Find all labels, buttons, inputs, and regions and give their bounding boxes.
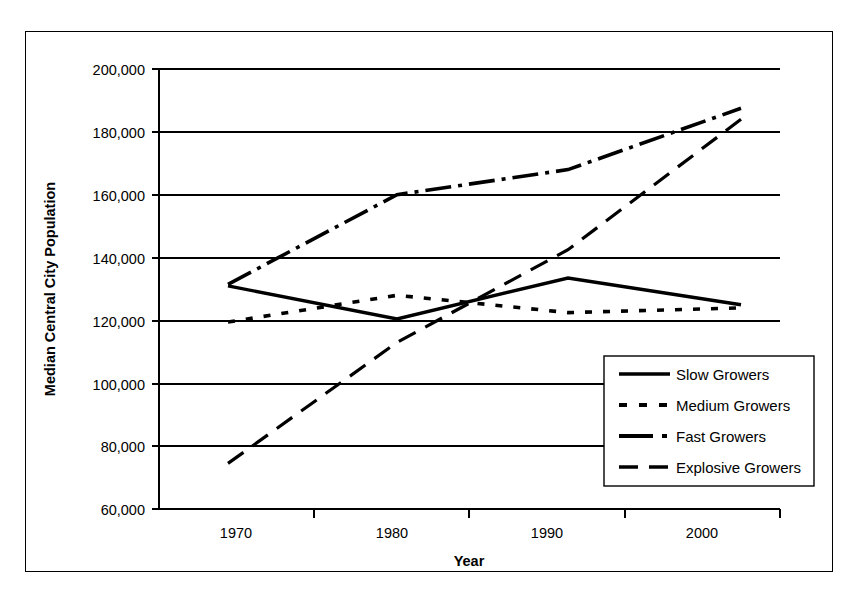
legend-label: Explosive Growers xyxy=(676,459,801,476)
x-tick-label: 1990 xyxy=(531,525,563,541)
y-axis-tick-labels: 200,000 180,000 160,000 140,000 120,000 … xyxy=(93,62,145,518)
chart-container: 200,000 180,000 160,000 140,000 120,000 … xyxy=(0,0,859,605)
y-tick-marks xyxy=(152,69,159,509)
chart-canvas: 200,000 180,000 160,000 140,000 120,000 … xyxy=(0,0,859,605)
y-tick-label: 120,000 xyxy=(93,314,145,330)
y-tick-label: 100,000 xyxy=(93,377,145,393)
y-tick-label: 200,000 xyxy=(93,62,145,78)
y-tick-label: 180,000 xyxy=(93,125,145,141)
chart-legend[interactable]: Slow Growers Medium Growers Fast Growers… xyxy=(604,356,814,486)
y-tick-label: 140,000 xyxy=(93,251,145,267)
x-tick-label: 2000 xyxy=(686,525,718,541)
x-axis-title: Year xyxy=(454,553,485,569)
x-tick-label: 1980 xyxy=(376,525,408,541)
legend-label: Fast Growers xyxy=(676,428,766,445)
legend-label: Medium Growers xyxy=(676,397,790,414)
legend-label: Slow Growers xyxy=(676,366,769,383)
y-axis-title: Median Central City Population xyxy=(42,182,58,396)
series-line-slow-growers xyxy=(228,278,741,319)
y-tick-label: 60,000 xyxy=(101,502,145,518)
x-axis-tick-labels: 1970 1980 1990 2000 xyxy=(220,525,718,541)
x-tick-marks xyxy=(314,509,780,518)
y-tick-label: 160,000 xyxy=(93,188,145,204)
y-tick-label: 80,000 xyxy=(101,439,145,455)
x-tick-label: 1970 xyxy=(220,525,252,541)
